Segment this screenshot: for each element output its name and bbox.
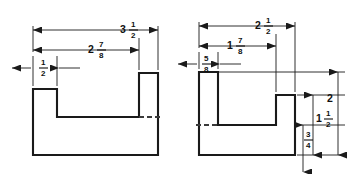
left-dim-inner-whole: 2 <box>88 43 94 55</box>
right-dim-height-base-num: 3 <box>306 130 311 139</box>
right-dim-height-step-num: 1 <box>326 109 331 118</box>
right-dim-overall-num: 1 <box>266 16 271 25</box>
right-part-outline <box>199 72 295 155</box>
right-dim-overall-den: 2 <box>266 27 271 36</box>
right-dim-height-base-den: 4 <box>306 141 311 150</box>
left-dim-tab-den: 2 <box>41 69 46 78</box>
right-dim-text-height-step: 1 1 2 <box>316 109 333 129</box>
right-dim-height-step-den: 2 <box>326 120 331 129</box>
left-part-outline <box>33 73 158 155</box>
left-dim-text-inner: 2 7 8 <box>88 40 106 60</box>
right-dim-height-step-whole: 1 <box>316 112 322 124</box>
left-dim-overall-whole: 3 <box>120 23 126 35</box>
left-dim-tab-num: 1 <box>41 58 46 67</box>
left-dim-overall-num: 1 <box>131 20 136 29</box>
right-dim-tab-den: 8 <box>204 65 209 74</box>
right-dim-inner-whole: 1 <box>227 39 233 51</box>
left-dim-text-overall: 3 1 2 <box>120 20 138 40</box>
right-dim-text-height-base: 3 4 <box>304 130 313 150</box>
left-figure: 3 1 2 2 7 8 1 2 <box>12 20 161 155</box>
right-dim-overall-whole: 2 <box>255 19 261 31</box>
right-dim-text-overall: 2 1 2 <box>255 16 273 36</box>
left-dim-inner-den: 8 <box>99 51 104 60</box>
left-dim-text-tab: 1 2 <box>39 58 48 78</box>
right-dim-text-inner: 1 7 8 <box>227 36 245 56</box>
right-dim-height-overall-text: 2 <box>327 92 333 104</box>
right-figure: 2 1 2 1 7 8 5 8 2 1 1 2 <box>178 16 345 172</box>
right-dim-inner-den: 8 <box>238 47 243 56</box>
drawing-sheet: 3 1 2 2 7 8 1 2 <box>0 0 349 174</box>
technical-drawing-canvas: 3 1 2 2 7 8 1 2 <box>0 0 349 174</box>
right-dim-inner-num: 7 <box>238 36 243 45</box>
left-dim-inner-num: 7 <box>99 40 104 49</box>
right-dim-tab-num: 5 <box>204 54 209 63</box>
left-dim-overall-den: 2 <box>131 31 136 40</box>
